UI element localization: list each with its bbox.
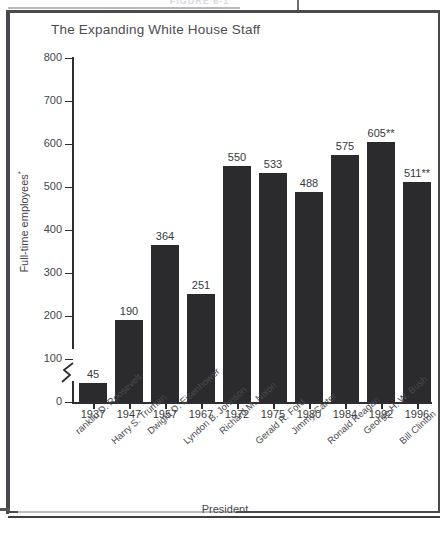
bar-value-label: 190 [99, 305, 159, 317]
bar[interactable] [151, 245, 179, 402]
y-tick [65, 316, 73, 318]
y-tick-label: 0 [22, 396, 62, 407]
bar-value-label: 533 [243, 158, 303, 170]
bar[interactable] [79, 383, 107, 402]
bar-value-label: 605** [351, 127, 411, 139]
y-tick [65, 187, 73, 189]
bar-value-label: 488 [279, 177, 339, 189]
bar[interactable] [259, 173, 287, 402]
bar-value-label: 364 [135, 230, 195, 242]
y-tick [65, 58, 73, 60]
bar[interactable] [331, 155, 359, 402]
y-tick-label: 500 [22, 181, 62, 192]
bar-value-label: 511** [387, 167, 447, 179]
y-tick [65, 359, 73, 361]
bar[interactable] [403, 182, 431, 402]
y-tick-label: 700 [22, 95, 62, 106]
y-tick-label: 100 [22, 353, 62, 364]
bar-value-label: 251 [171, 279, 231, 291]
y-tick-label: 400 [22, 224, 62, 235]
y-axis-title: Full-time employees* [16, 162, 30, 282]
y-tick [65, 230, 73, 232]
x-axis-title: President [180, 503, 270, 515]
y-tick-label: 200 [22, 310, 62, 321]
figure-page: FIGURE 6-1 The Expanding White House Sta… [0, 0, 448, 538]
bar-value-label: 575 [315, 140, 375, 152]
y-tick-label: 600 [22, 138, 62, 149]
bar-chart-plot: Full-time employees* 0100200300400500600… [0, 0, 448, 538]
y-tick-label: 800 [22, 52, 62, 63]
bar[interactable] [367, 142, 395, 402]
y-axis-line-lower [72, 381, 74, 403]
y-tick [65, 402, 73, 404]
bar[interactable] [295, 192, 323, 402]
bar-value-label: 45 [63, 368, 123, 380]
y-tick [65, 144, 73, 146]
y-tick-label: 300 [22, 267, 62, 278]
y-tick [65, 273, 73, 275]
y-tick [65, 101, 73, 103]
